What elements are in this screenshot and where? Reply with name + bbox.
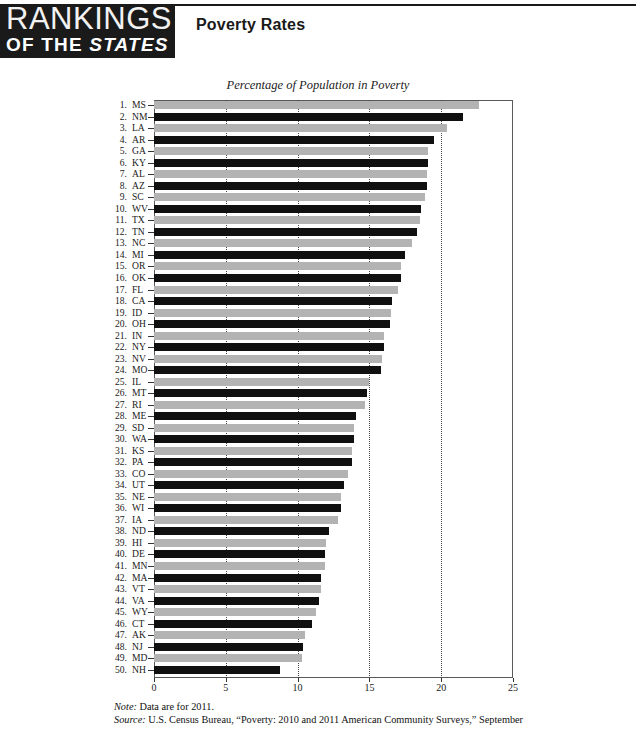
y-axis-tick xyxy=(148,382,154,383)
bar xyxy=(154,550,325,558)
rank-number: 45. xyxy=(110,607,127,616)
y-axis-label: 9.SC xyxy=(100,192,154,201)
y-axis-tick xyxy=(148,589,154,590)
y-axis-label: 34.UT xyxy=(100,480,154,489)
y-axis-label: 8.AZ xyxy=(100,181,154,190)
x-axis-label: 5 xyxy=(211,682,241,693)
rank-number: 34. xyxy=(110,480,127,489)
bar xyxy=(154,378,369,386)
x-axis-label: 20 xyxy=(426,682,456,693)
bar xyxy=(154,274,401,282)
y-axis-label: 13.NC xyxy=(100,238,154,247)
y-axis-tick xyxy=(148,186,154,187)
y-axis-label: 35.NE xyxy=(100,492,154,501)
y-axis-tick xyxy=(148,301,154,302)
y-axis-tick xyxy=(148,485,154,486)
y-axis-tick xyxy=(148,658,154,659)
rank-number: 49. xyxy=(110,653,127,662)
y-axis-tick xyxy=(148,220,154,221)
bar xyxy=(154,597,319,605)
rank-number: 40. xyxy=(110,549,127,558)
y-axis-label: 49.MD xyxy=(100,653,154,662)
y-axis-label: 42.MA xyxy=(100,573,154,582)
x-axis-label: 25 xyxy=(498,682,528,693)
y-axis-label: 21.IN xyxy=(100,331,154,340)
y-axis-label: 5.GA xyxy=(100,146,154,155)
y-axis-label: 41.MN xyxy=(100,561,154,570)
y-axis-tick xyxy=(148,140,154,141)
y-axis-label: 7.AL xyxy=(100,169,154,178)
y-axis-tick xyxy=(148,209,154,210)
y-axis-label: 19.ID xyxy=(100,308,154,317)
bar xyxy=(154,343,384,351)
poverty-rates-bar-chart: 1.MS2.NM3.LA4.AR5.GA6.KY7.AL8.AZ9.SC10.W… xyxy=(0,0,636,730)
bar xyxy=(154,643,303,651)
rank-number: 21. xyxy=(110,331,127,340)
y-axis-label: 27.RI xyxy=(100,400,154,409)
rank-number: 8. xyxy=(110,181,127,190)
bar xyxy=(154,608,316,616)
bar xyxy=(154,666,280,674)
y-axis-tick xyxy=(148,531,154,532)
x-axis-label: 15 xyxy=(354,682,384,693)
y-axis-label: 1.MS xyxy=(100,100,154,109)
bar xyxy=(154,297,392,305)
bar xyxy=(154,516,338,524)
rank-number: 3. xyxy=(110,123,127,132)
x-axis-label: 0 xyxy=(139,682,169,693)
y-axis-tick xyxy=(148,578,154,579)
y-axis-labels: 1.MS2.NM3.LA4.AR5.GA6.KY7.AL8.AZ9.SC10.W… xyxy=(94,0,154,730)
y-axis-tick xyxy=(148,462,154,463)
y-axis-label: 2.NM xyxy=(100,112,154,121)
rank-number: 39. xyxy=(110,538,127,547)
y-axis-label: 30.WA xyxy=(100,434,154,443)
y-axis-label: 37.IA xyxy=(100,515,154,524)
bar xyxy=(154,332,384,340)
y-axis-tick xyxy=(148,336,154,337)
rank-number: 50. xyxy=(110,665,127,674)
bar xyxy=(154,435,354,443)
bar xyxy=(154,170,427,178)
y-axis-tick xyxy=(148,428,154,429)
rank-number: 6. xyxy=(110,158,127,167)
y-axis-label: 28.ME xyxy=(100,411,154,420)
y-axis-tick xyxy=(148,554,154,555)
bar xyxy=(154,355,382,363)
y-axis-label: 50.NH xyxy=(100,665,154,674)
rank-number: 32. xyxy=(110,457,127,466)
y-axis-tick xyxy=(148,566,154,567)
rank-number: 26. xyxy=(110,388,127,397)
y-axis-tick xyxy=(148,520,154,521)
y-axis-label: 39.HI xyxy=(100,538,154,547)
bar xyxy=(154,654,302,662)
y-axis-tick xyxy=(148,266,154,267)
source-text: U.S. Census Bureau, “Poverty: 2010 and 2… xyxy=(146,714,523,725)
bar xyxy=(154,113,463,121)
bar xyxy=(154,251,405,259)
rank-number: 1. xyxy=(110,100,127,109)
bar xyxy=(154,239,412,247)
y-axis-label: 48.NJ xyxy=(100,642,154,651)
y-axis-label: 38.ND xyxy=(100,526,154,535)
rank-number: 24. xyxy=(110,365,127,374)
rank-number: 38. xyxy=(110,526,127,535)
y-axis-label: 12.TN xyxy=(100,227,154,236)
y-axis-tick xyxy=(148,393,154,394)
y-axis-tick xyxy=(148,601,154,602)
bar xyxy=(154,389,367,397)
bar xyxy=(154,193,425,201)
y-axis-tick xyxy=(148,647,154,648)
bar xyxy=(154,447,352,455)
rank-number: 12. xyxy=(110,227,127,236)
bar xyxy=(154,481,344,489)
rank-number: 36. xyxy=(110,503,127,512)
y-axis-tick xyxy=(148,290,154,291)
rank-number: 27. xyxy=(110,400,127,409)
rank-number: 7. xyxy=(110,169,127,178)
y-axis-label: 4.AR xyxy=(100,135,154,144)
bar xyxy=(154,562,325,570)
y-axis-tick xyxy=(148,670,154,671)
y-axis-label: 20.OH xyxy=(100,319,154,328)
bar xyxy=(154,216,420,224)
y-axis-tick xyxy=(148,359,154,360)
